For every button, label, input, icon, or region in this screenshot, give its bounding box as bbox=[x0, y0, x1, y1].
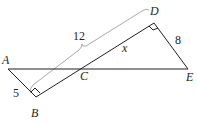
measure-de: 8 bbox=[175, 33, 181, 47]
label-d: D bbox=[149, 4, 159, 18]
brace-bd bbox=[30, 9, 149, 93]
label-c: C bbox=[80, 69, 89, 83]
geometry-diagram: A B C D E 5 8 12 x bbox=[0, 0, 197, 124]
label-e: E bbox=[185, 70, 194, 84]
label-b: B bbox=[31, 106, 39, 120]
measure-bd: 12 bbox=[73, 29, 85, 43]
measure-ab: 5 bbox=[13, 86, 19, 100]
right-angle-marker-b bbox=[31, 88, 40, 93]
segment-bd bbox=[36, 23, 154, 97]
segment-de bbox=[154, 23, 188, 69]
measure-cd: x bbox=[121, 41, 128, 55]
label-a: A bbox=[1, 53, 10, 67]
